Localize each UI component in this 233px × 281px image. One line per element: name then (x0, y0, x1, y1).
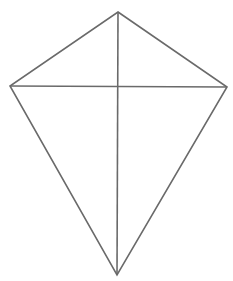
vertical-diagonal (117, 12, 118, 275)
horizontal-diagonal (10, 86, 227, 87)
kite-diagram (0, 0, 233, 281)
